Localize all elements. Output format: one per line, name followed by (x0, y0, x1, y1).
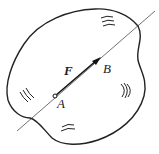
rigid-body-outline (7, 9, 145, 144)
texture-marks-right (121, 83, 130, 98)
texture-marks-top (101, 16, 115, 26)
texture-marks-left (20, 88, 34, 102)
texture-marks-bottom (61, 124, 75, 131)
point-a-label: A (56, 96, 65, 111)
force-label: F (63, 63, 73, 78)
point-b-label: B (103, 61, 111, 76)
force-vector (55, 60, 97, 96)
force-diagram: F B A (0, 0, 159, 154)
